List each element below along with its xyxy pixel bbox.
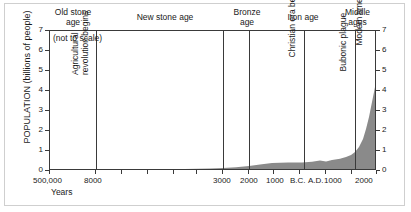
y-tick-right-6: [376, 50, 380, 51]
y-tick-right-5: [376, 70, 380, 71]
population-growth-chart: POPULATION (billions of people) 7 6 5 4 …: [0, 0, 411, 212]
x-tick-minor-1: [121, 170, 122, 174]
era-label-new-stone-age: New stone age: [105, 13, 225, 23]
y-label-left-1: 1: [33, 146, 43, 154]
y-label-left-3: 3: [33, 106, 43, 114]
y-label-right-0: 0: [382, 166, 392, 174]
x-tick-2000: [248, 170, 249, 174]
y-label-right-5: 5: [382, 66, 392, 74]
x-tick-1000ad: [325, 170, 326, 174]
y-label-left-7: 7: [33, 26, 43, 34]
annotation-christian-era: Christian era begins: [288, 0, 298, 58]
x-label-1000ad: 1000: [324, 176, 342, 185]
x-tick-1000bc: [273, 170, 274, 174]
x-tick-500000: [49, 170, 50, 174]
x-tick-8000: [95, 170, 96, 174]
y-label-right-1: 1: [382, 146, 392, 154]
y-label-right-7: 7: [382, 26, 392, 34]
x-tick-2000ad: [351, 170, 352, 174]
x-axis-title: Years: [51, 188, 72, 197]
era-divider-bronze-iron: [249, 31, 250, 170]
x-label-500000: 500,000: [33, 176, 62, 185]
population-area-curve: [50, 31, 376, 170]
x-label-1000: 1000: [266, 176, 284, 185]
y-tick-right-7: [376, 30, 380, 31]
x-tick-minor-3: [173, 170, 174, 174]
y-label-left-6: 6: [33, 46, 43, 54]
y-label-right-6: 6: [382, 46, 392, 54]
x-label-ad: A.D.: [308, 176, 324, 185]
y-label-left-0: 0: [33, 166, 43, 174]
era-divider-iron-middle: [304, 31, 305, 170]
x-tick-3000: [222, 170, 223, 174]
y-tick-right-4: [376, 90, 380, 91]
x-tick-minor-4: [196, 170, 197, 174]
annotation-agricultural-revolution: Agricultural revolution begins: [71, 0, 90, 75]
y-label-left-5: 5: [33, 66, 43, 74]
x-label-3000: 3000: [213, 176, 231, 185]
x-label-8000: 8000: [84, 176, 102, 185]
y-label-left-4: 4: [33, 86, 43, 94]
x-label-bc: B.C.: [290, 176, 306, 185]
y-label-right-4: 4: [382, 86, 392, 94]
x-tick-end: [376, 170, 377, 174]
era-divider-new-stone-bronze: [223, 31, 224, 170]
x-label-2000ad: 2000: [355, 176, 373, 185]
y-label-left-2: 2: [33, 126, 43, 134]
annotation-modern-times: Modern times: [355, 0, 365, 46]
era-divider-middle-modern: [355, 31, 356, 170]
y-tick-right-2: [376, 130, 380, 131]
y-axis-title: POPULATION (billions of people): [22, 0, 32, 157]
era-divider-old-new-stone: [96, 31, 97, 170]
y-label-right-3: 3: [382, 106, 392, 114]
y-label-right-2: 2: [382, 126, 392, 134]
annotation-bubonic-plague: Bubonic plague: [339, 0, 349, 72]
x-tick-minor-2: [147, 170, 148, 174]
x-label-2000: 2000: [240, 176, 258, 185]
x-tick-bc-ad: [299, 170, 300, 174]
plot-area: [49, 30, 376, 170]
y-tick-right-3: [376, 110, 380, 111]
y-tick-right-1: [376, 150, 380, 151]
